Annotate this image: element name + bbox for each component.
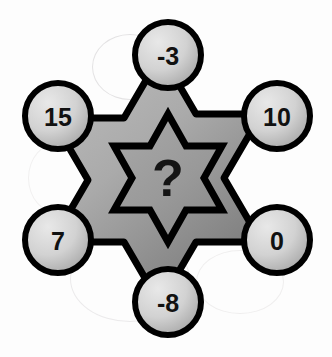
- node-lower-right[interactable]: 0: [244, 207, 310, 273]
- puzzle-canvas: ? -3 10 0 -8 7 15: [0, 0, 332, 357]
- node-upper-right[interactable]: 10: [244, 83, 310, 149]
- node-top[interactable]: -3: [135, 22, 201, 88]
- node-upper-right-label: 10: [263, 103, 291, 131]
- node-bottom[interactable]: -8: [135, 269, 201, 335]
- node-lower-right-label: 0: [270, 227, 284, 255]
- hexagram-diagram: ? -3 10 0 -8 7 15: [0, 0, 332, 357]
- node-lower-left-label: 7: [51, 227, 65, 255]
- node-bottom-label: -8: [157, 289, 179, 317]
- center-value-label: ?: [152, 149, 184, 207]
- node-top-label: -3: [157, 42, 179, 70]
- node-upper-left-label: 15: [44, 103, 72, 131]
- node-upper-left[interactable]: 15: [25, 83, 91, 149]
- node-lower-left[interactable]: 7: [25, 207, 91, 273]
